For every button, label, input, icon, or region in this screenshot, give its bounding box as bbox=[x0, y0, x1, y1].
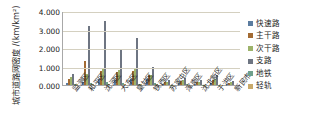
legend-item-label: 地铁 bbox=[256, 70, 272, 78]
legend-swatch-icon bbox=[248, 84, 253, 89]
legend-swatch-icon bbox=[248, 46, 253, 51]
legend-item-label: 次干路 bbox=[256, 45, 280, 53]
y-axis-title-text: 城市道路网密度 /(km/km²) bbox=[12, 5, 22, 104]
legend-swatch-icon bbox=[248, 71, 253, 76]
gridline bbox=[63, 12, 240, 13]
x-axis-tick-labels: 监测区和平区沈河区大东区皇姑区铁西区苏家屯区浑南区沈北新区于洪区新民市 bbox=[62, 87, 240, 128]
y-axis-tick-label: 2.000 bbox=[39, 45, 60, 54]
y-axis-tick-label: 1.000 bbox=[39, 63, 60, 72]
legend-item[interactable]: 主干路 bbox=[248, 30, 318, 43]
chart-container: 城市道路网密度 /(km/km²) 0.0001.0002.0003.0004.… bbox=[0, 0, 318, 128]
y-axis-tick-labels: 0.0001.0002.0003.0004.000 bbox=[33, 12, 61, 86]
legend-item-label: 主干路 bbox=[256, 32, 280, 40]
legend: 快速路主干路次干路支路地铁轻轨 bbox=[248, 17, 318, 93]
y-axis-tick-label: 4.000 bbox=[39, 8, 60, 17]
gridline bbox=[63, 49, 240, 50]
legend-item-label: 轻轨 bbox=[256, 82, 272, 90]
y-axis-title: 城市道路网密度 /(km/km²) bbox=[0, 0, 34, 110]
legend-item[interactable]: 快速路 bbox=[248, 17, 318, 30]
legend-swatch-icon bbox=[248, 21, 253, 26]
gridline bbox=[63, 31, 240, 32]
legend-item[interactable]: 轻轨 bbox=[248, 80, 318, 93]
legend-item[interactable]: 次干路 bbox=[248, 42, 318, 55]
legend-swatch-icon bbox=[248, 59, 253, 64]
legend-item[interactable]: 支路 bbox=[248, 55, 318, 68]
legend-item[interactable]: 地铁 bbox=[248, 67, 318, 80]
y-axis-tick-label: 3.000 bbox=[39, 26, 60, 35]
legend-item-label: 快速路 bbox=[256, 20, 280, 28]
y-axis-tick-label: 0.000 bbox=[39, 82, 60, 91]
legend-swatch-icon bbox=[248, 33, 253, 38]
legend-item-label: 支路 bbox=[256, 57, 272, 65]
